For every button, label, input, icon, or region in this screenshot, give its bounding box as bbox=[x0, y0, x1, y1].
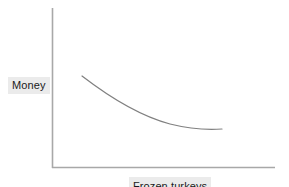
demand-curve-line bbox=[82, 76, 222, 129]
y-axis-label: Money bbox=[8, 77, 50, 94]
demand-curve-figure: Money Frozen turkeys bbox=[0, 0, 289, 187]
x-axis-label: Frozen turkeys bbox=[129, 177, 211, 187]
